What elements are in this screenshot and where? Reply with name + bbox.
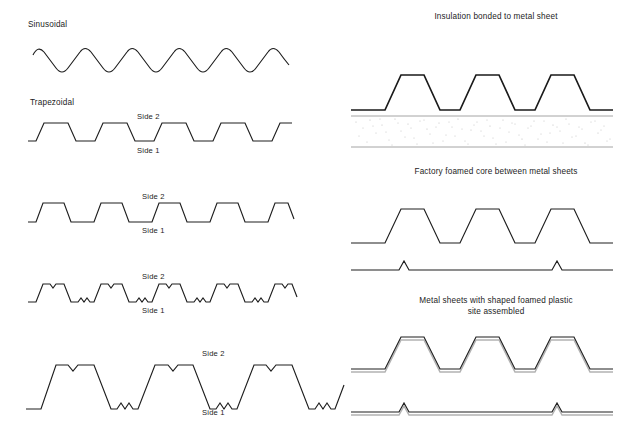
side-label-profile1-side1: Side 1 [137, 146, 160, 155]
figure-root: Sinusoidal Trapezoidal Side 2 Side 1 Sid… [0, 0, 642, 434]
caption-site-assembled-line2: site assembled [468, 307, 525, 317]
heading-trapezoidal: Trapezoidal [30, 98, 74, 108]
panel-site-assembled [351, 337, 613, 415]
profile-sinusoidal [33, 49, 289, 73]
profile-deep-deck [26, 365, 344, 409]
caption-site-assembled-line1: Metal sheets with shaped foamed plastic [419, 296, 572, 306]
side-label-profile3-side2: Side 2 [142, 272, 165, 281]
foam-core-texture [355, 118, 610, 145]
profile-trapezoidal-1 [28, 123, 292, 141]
profile-trapezoidal-2 [28, 203, 294, 222]
side-label-profile1-side2: Side 2 [137, 112, 160, 121]
panel-insulation-bonded [351, 75, 613, 147]
panel-factory-foamed [351, 209, 613, 270]
profile-drawings [0, 0, 642, 434]
caption-insulation-bonded: Insulation bonded to metal sheet [434, 12, 557, 22]
side-label-profile4-side2: Side 2 [202, 349, 225, 358]
side-label-profile2-side1: Side 1 [142, 226, 165, 235]
caption-factory-foamed-core: Factory foamed core between metal sheets [414, 167, 577, 177]
side-label-profile2-side2: Side 2 [142, 192, 165, 201]
heading-sinusoidal: Sinusoidal [28, 20, 67, 30]
profile-trapezoidal-stiffened [28, 284, 297, 302]
side-label-profile4-side1: Side 1 [202, 408, 225, 417]
side-label-profile3-side1: Side 1 [142, 306, 165, 315]
